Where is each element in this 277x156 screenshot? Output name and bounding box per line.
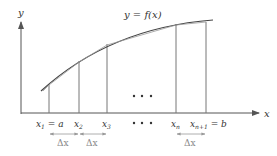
svg-text:xn: xn (171, 119, 180, 130)
function-curve (41, 20, 213, 91)
svg-text:x3: x3 (102, 119, 111, 130)
ellipsis-lower (133, 122, 152, 124)
svg-text:x1 = a: x1 = a (36, 119, 64, 130)
ellipsis-upper (133, 95, 152, 97)
partition-labels: x1 = a x2 x3 xn xn+1 = b (36, 119, 227, 130)
partition-lines (49, 22, 206, 113)
y-axis-label: y (17, 7, 24, 18)
curve-label: y = f(x) (123, 9, 162, 20)
svg-text:Δx: Δx (57, 138, 69, 148)
riemann-diagram: y x y = f(x) x1 = a x2 x3 xn xn+1 = b Δx… (0, 0, 277, 156)
svg-text:xn+1 = b: xn+1 = b (190, 119, 227, 130)
svg-text:x2: x2 (74, 119, 83, 130)
delta-labels: Δx Δx Δx (57, 138, 196, 148)
approx-polyline (43, 22, 206, 91)
svg-text:Δx: Δx (86, 138, 98, 148)
svg-text:Δx: Δx (184, 138, 196, 148)
x-axis-label: x (264, 108, 270, 119)
